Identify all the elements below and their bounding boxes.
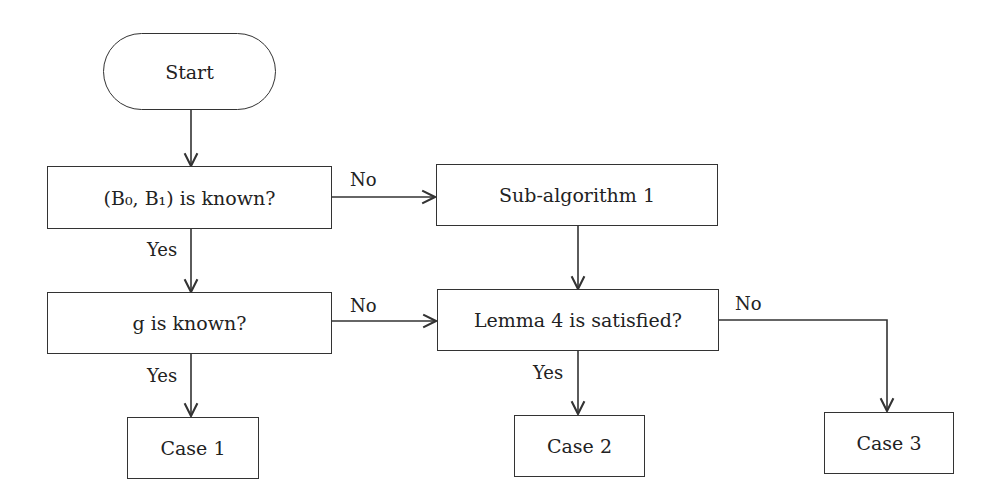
edge-label-q1-yes: Yes <box>147 239 177 260</box>
case-3-node: Case 3 <box>824 412 954 474</box>
q2-label: g is known? <box>133 312 247 334</box>
lemma-label: Lemma 4 is satisfied? <box>474 309 682 331</box>
decision-lemma4: Lemma 4 is satisfied? <box>437 289 719 351</box>
q1-label: (B₀, B₁) is known? <box>104 187 276 209</box>
case-2-node: Case 2 <box>514 415 645 477</box>
start-node: Start <box>103 33 276 110</box>
case2-label: Case 2 <box>547 435 612 457</box>
case-1-node: Case 1 <box>127 417 259 479</box>
start-label: Start <box>165 61 214 83</box>
edge-label-q2-yes: Yes <box>147 365 177 386</box>
edge-label-q2-no: No <box>350 295 377 316</box>
sub1-label: Sub-algorithm 1 <box>499 184 655 206</box>
edge-label-q1-no: No <box>350 169 377 190</box>
edge-label-lemma-no: No <box>735 293 762 314</box>
decision-g-known: g is known? <box>47 292 332 354</box>
edge-label-lemma-yes: Yes <box>533 362 563 383</box>
decision-b0-b1-known: (B₀, B₁) is known? <box>47 166 332 229</box>
case1-label: Case 1 <box>161 437 226 459</box>
sub-algorithm-1-node: Sub-algorithm 1 <box>436 164 718 226</box>
case3-label: Case 3 <box>857 432 922 454</box>
